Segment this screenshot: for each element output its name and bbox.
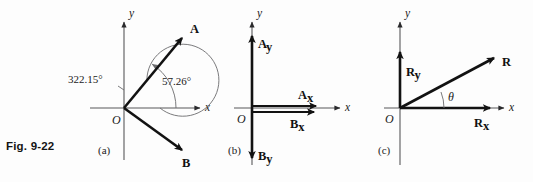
component-by-label: By [258,149,273,166]
panel-c-label: (c) [378,144,390,156]
vector-b-label: B [182,156,190,170]
panel-a-diagram: y x O A B 322.15° 57.26° [72,0,222,182]
vector-b-arrow [124,108,182,150]
panel-b-y-axis-label: y [256,7,263,20]
panel-a-y-axis-label: y [128,7,135,20]
figure-container: Fig. 9-22 y x O A [0,0,533,182]
panel-b-x-axis-label: x [344,101,351,113]
panel-b-origin-label: O [237,112,246,126]
vector-a-arrow [124,38,182,108]
panel-c-theta-label: θ [448,90,454,104]
component-ay-label: Ay [258,37,273,54]
panel-c-origin-label: O [385,112,394,126]
component-rx-label: Rx [474,116,490,133]
panel-c-x-axis-label: x [508,101,515,113]
panel-a-angle-322-text: 322.15° [68,73,103,85]
panel-b-diagram: y x O Ay By Ax Bx [232,0,372,182]
panel-a-label: (a) [98,144,110,156]
panel-b-label: (b) [228,144,241,156]
panel-a-angle-57-text: 57.26° [162,75,191,87]
vector-a-label: A [190,22,199,36]
component-bx-label: Bx [290,117,305,134]
panel-c-diagram: y x O Ry Rx R θ [382,0,532,182]
component-ax-label: Ax [298,88,314,105]
figure-caption: Fig. 9-22 [6,140,54,152]
panel-c-y-axis-label: y [404,7,411,20]
panel-a-angle-leader-322 [118,86,124,90]
resultant-r-label: R [502,55,512,69]
component-ry-label: Ry [406,65,422,82]
panel-a-origin-label: O [112,113,121,127]
panel-c-theta-arc [441,92,444,108]
